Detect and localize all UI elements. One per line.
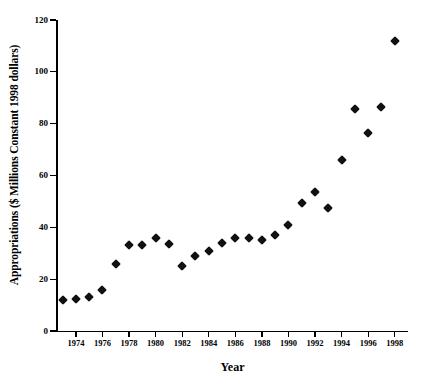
plot-area [56, 20, 408, 331]
x-tick-mark [128, 332, 129, 337]
y-tick-label: 60 [0, 171, 48, 180]
x-tick-mark [208, 332, 209, 337]
x-tick-mark [288, 332, 289, 337]
y-tick-label: 80 [0, 119, 48, 128]
x-tick-mark [235, 332, 236, 337]
x-tick-mark [314, 332, 315, 337]
x-axis-title: Year [60, 360, 405, 375]
x-tick-mark [341, 332, 342, 337]
y-tick-label: 100 [0, 67, 48, 76]
y-tick-label: 20 [0, 275, 48, 284]
x-tick-mark [261, 332, 262, 337]
y-tick-label: 40 [0, 223, 48, 232]
y-tick-label: 120 [0, 16, 48, 25]
y-tick-label: 0 [0, 327, 48, 336]
x-tick-mark [155, 332, 156, 337]
x-tick-mark [102, 332, 103, 337]
x-tick-label: 1998 [375, 339, 415, 348]
x-tick-mark [368, 332, 369, 337]
chart-figure: Appropriations ($ Millions Constant 1998… [0, 0, 424, 388]
x-tick-mark [75, 332, 76, 337]
x-tick-mark [182, 332, 183, 337]
x-tick-mark [394, 332, 395, 337]
